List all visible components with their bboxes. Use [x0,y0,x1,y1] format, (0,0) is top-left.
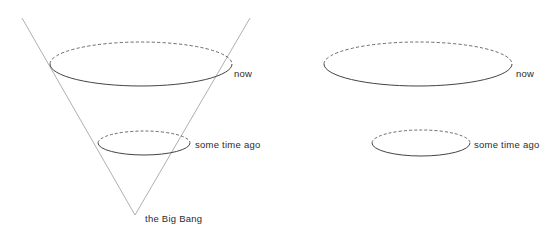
right-now-ellipse-back-dashed [324,42,512,64]
left-cone-edge-right [135,18,250,215]
diagram-canvas: now some time ago the Big Bang now some … [0,0,555,245]
left-past-ellipse-back-dashed [98,131,190,143]
left-now-ellipse-back-dashed [50,42,232,64]
right-some-time-ago-label: some time ago [474,139,540,150]
left-now-ellipse-front-solid [50,64,232,86]
right-past-ellipse-front-solid [372,143,470,156]
right-now-ellipse-front-solid [324,64,512,86]
right-past-ellipse-back-dashed [372,130,470,143]
left-some-time-ago-label: some time ago [195,139,261,150]
right-diagram: now some time ago [324,42,540,156]
left-diagram: now some time ago the Big Bang [22,18,261,224]
left-now-label: now [234,68,252,79]
left-big-bang-label: the Big Bang [145,213,202,224]
right-now-label: now [516,68,534,79]
